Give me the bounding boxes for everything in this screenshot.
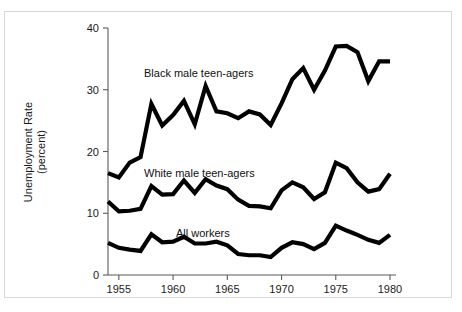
y-tick-label: 0: [93, 269, 99, 281]
y-axis-title-line2: (percent): [35, 130, 47, 174]
series-annotations: Black male teen-agers White male teen-ag…: [144, 67, 255, 239]
series-line-all-workers: [108, 226, 390, 257]
y-axis-ticks: 010203040: [87, 22, 108, 281]
x-tick-label: 1980: [378, 283, 402, 295]
y-tick-label: 30: [87, 84, 99, 96]
x-tick-label: 1975: [324, 283, 348, 295]
y-tick-label: 20: [87, 146, 99, 158]
annotation-white-male-teen-agers: White male teen-agers: [144, 167, 255, 179]
y-axis-title: Unemployment Rate (percent): [22, 102, 47, 202]
y-tick-label: 10: [87, 207, 99, 219]
y-axis-title-line1: Unemployment Rate: [22, 102, 34, 202]
x-tick-label: 1965: [215, 283, 239, 295]
x-axis-ticks: 195519601965197019751980: [107, 275, 403, 295]
x-tick-label: 1970: [269, 283, 293, 295]
figure-page: 010203040 195519601965197019751980 Unemp…: [0, 0, 462, 312]
x-tick-label: 1955: [107, 283, 131, 295]
series-line-black-male-teen-agers: [108, 46, 390, 178]
unemployment-rate-line-chart: 010203040 195519601965197019751980 Unemp…: [0, 0, 462, 312]
annotation-all-workers: All workers: [176, 227, 230, 239]
annotation-black-male-teen-agers: Black male teen-agers: [144, 67, 254, 79]
chart-canvas: 010203040 195519601965197019751980 Unemp…: [0, 0, 462, 312]
x-tick-label: 1960: [161, 283, 185, 295]
y-tick-label: 40: [87, 22, 99, 34]
